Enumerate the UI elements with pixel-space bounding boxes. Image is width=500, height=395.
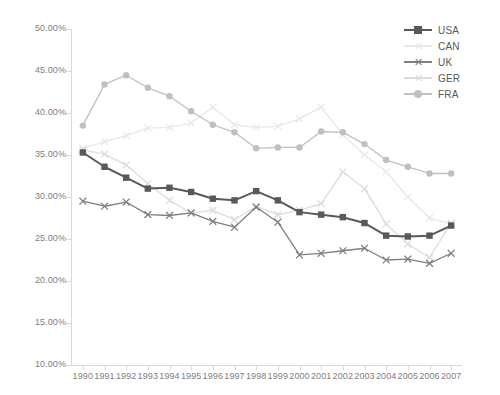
data-point xyxy=(80,149,86,155)
legend-swatch-icon xyxy=(404,24,432,36)
data-point xyxy=(296,115,303,122)
y-tick-label: 10.00% xyxy=(10,359,66,369)
data-point xyxy=(231,129,237,135)
series-line xyxy=(83,152,451,236)
data-point xyxy=(123,162,130,169)
x-tick xyxy=(386,366,387,370)
y-tick-label: 25.00% xyxy=(10,233,66,243)
data-point xyxy=(231,197,237,203)
x-tick xyxy=(321,366,322,370)
data-point xyxy=(166,185,172,191)
data-point xyxy=(210,122,216,128)
legend-item-uk[interactable]: ✕UK xyxy=(404,54,496,70)
data-point xyxy=(210,195,216,201)
y-tick-label: 30.00% xyxy=(10,191,66,201)
data-point xyxy=(80,122,86,128)
data-point xyxy=(318,104,325,111)
series-usa xyxy=(80,149,455,239)
legend-label: CAN xyxy=(432,41,460,52)
series-line xyxy=(83,107,451,224)
data-point xyxy=(318,128,324,134)
legend-item-fra[interactable]: FRA xyxy=(404,86,496,102)
data-point xyxy=(101,81,107,87)
legend-item-can[interactable]: ✕CAN xyxy=(404,38,496,54)
data-point xyxy=(361,185,368,192)
x-tick xyxy=(256,366,257,370)
legend-swatch-icon: ✕ xyxy=(404,40,432,52)
data-point xyxy=(188,108,194,114)
x-tick xyxy=(213,366,214,370)
series-uk xyxy=(79,198,454,267)
legend-swatch-icon: ✕ xyxy=(404,56,432,68)
data-point xyxy=(188,189,194,195)
line-chart: 50.00%45.00%40.00%35.00%30.00%25.00%20.0… xyxy=(0,0,500,395)
data-point xyxy=(145,185,151,191)
legend-item-usa[interactable]: USA xyxy=(404,22,496,38)
y-tick xyxy=(66,365,71,366)
data-point xyxy=(123,174,129,180)
x-tick xyxy=(148,366,149,370)
x-tick xyxy=(408,366,409,370)
data-point xyxy=(275,197,281,203)
series-line xyxy=(83,150,451,258)
legend-label: GER xyxy=(432,73,460,84)
x-tick xyxy=(191,366,192,370)
data-point xyxy=(166,197,173,204)
x-tick xyxy=(278,366,279,370)
data-point xyxy=(405,233,411,239)
data-point xyxy=(426,170,432,176)
x-tick xyxy=(105,366,106,370)
y-tick xyxy=(66,155,71,156)
y-tick xyxy=(66,239,71,240)
x-tick xyxy=(430,366,431,370)
y-tick xyxy=(66,71,71,72)
data-point xyxy=(405,164,411,170)
data-point xyxy=(426,254,433,261)
data-point xyxy=(231,216,238,223)
data-point xyxy=(209,104,216,111)
x-axis-line xyxy=(71,365,462,366)
series-fra xyxy=(80,72,455,177)
data-point xyxy=(404,194,411,201)
x-tick xyxy=(451,366,452,370)
data-point xyxy=(448,170,454,176)
legend-swatch-icon: ✕ xyxy=(404,72,432,84)
data-point xyxy=(383,220,390,227)
y-axis-labels: 50.00%45.00%40.00%35.00%30.00%25.00%20.0… xyxy=(6,0,66,395)
legend-label: FRA xyxy=(432,89,459,100)
y-tick xyxy=(66,197,71,198)
x-tick-label: 2007 xyxy=(436,371,466,381)
x-tick xyxy=(235,366,236,370)
y-tick-label: 50.00% xyxy=(10,23,66,33)
y-tick-label: 40.00% xyxy=(10,107,66,117)
data-point xyxy=(383,232,389,238)
data-point xyxy=(361,220,367,226)
y-tick xyxy=(66,281,71,282)
x-tick xyxy=(83,366,84,370)
data-point xyxy=(404,241,411,248)
data-point xyxy=(145,85,151,91)
data-point xyxy=(361,152,368,159)
series-line xyxy=(83,75,451,173)
data-point xyxy=(383,168,390,175)
data-point xyxy=(339,168,346,175)
y-tick xyxy=(66,29,71,30)
chart-legend: USA✕CAN✕UK✕GERFRA xyxy=(404,22,496,102)
data-point xyxy=(253,188,259,194)
data-point xyxy=(296,144,302,150)
x-tick xyxy=(170,366,171,370)
x-tick xyxy=(300,366,301,370)
data-point xyxy=(448,222,454,228)
y-tick-label: 35.00% xyxy=(10,149,66,159)
data-point xyxy=(123,72,129,78)
data-point xyxy=(448,250,455,257)
legend-label: UK xyxy=(432,57,452,68)
data-point xyxy=(340,129,346,135)
legend-swatch-icon xyxy=(404,88,432,100)
data-point xyxy=(340,214,346,220)
y-tick-label: 15.00% xyxy=(10,317,66,327)
data-point xyxy=(296,209,302,215)
data-point xyxy=(383,157,389,163)
y-tick-label: 20.00% xyxy=(10,275,66,285)
legend-item-ger[interactable]: ✕GER xyxy=(404,70,496,86)
